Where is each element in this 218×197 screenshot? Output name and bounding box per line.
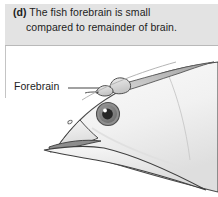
caption-text: (d) The fish forebrain is small compared… xyxy=(13,5,213,34)
nostril xyxy=(67,119,73,124)
panel-letter: (d) xyxy=(13,6,27,18)
forebrain-label: Forebrain xyxy=(14,80,59,92)
figure-panel-d: (d) The fish forebrain is small compared… xyxy=(0,0,218,197)
eye-highlight xyxy=(103,109,107,113)
caption-line-1: The fish forebrain is small xyxy=(29,6,150,18)
caption-line-2: compared to remainder of brain. xyxy=(13,20,213,35)
